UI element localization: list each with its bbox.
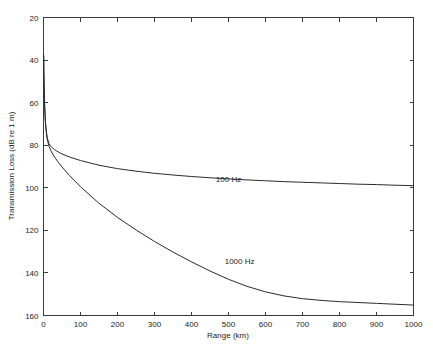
x-tick-label: 600 <box>259 320 273 329</box>
y-axis-title: Transmission Loss (dB re 1 m) <box>7 111 16 220</box>
y-axis-tick-labels: 20406080100120140160 <box>25 14 39 321</box>
x-tick-label: 700 <box>296 320 310 329</box>
x-tick-label: 400 <box>185 320 199 329</box>
transmission-loss-plot: 01002003004005006007008009001000 2040608… <box>0 0 433 351</box>
x-axis-ticks <box>44 18 414 316</box>
x-tick-label: 900 <box>370 320 384 329</box>
y-tick-label: 40 <box>30 56 39 65</box>
curve-100-hz <box>44 56 414 186</box>
x-tick-label: 200 <box>111 320 125 329</box>
annotation-1000-hz: 1000 Hz <box>225 257 255 266</box>
y-tick-label: 120 <box>25 226 39 235</box>
x-tick-label: 300 <box>148 320 162 329</box>
x-axis-tick-labels: 01002003004005006007008009001000 <box>41 320 423 329</box>
y-tick-label: 60 <box>30 99 39 108</box>
y-tick-label: 80 <box>30 141 39 150</box>
x-tick-label: 800 <box>333 320 347 329</box>
curve-annotations: 100 Hz1000 Hz <box>216 175 255 266</box>
y-axis-ticks <box>44 18 414 316</box>
x-tick-label: 0 <box>41 320 46 329</box>
chart-figure: 01002003004005006007008009001000 2040608… <box>0 0 433 351</box>
y-tick-label: 20 <box>30 14 39 23</box>
y-tick-label: 140 <box>25 269 39 278</box>
x-tick-label: 1000 <box>405 320 423 329</box>
annotation-100-hz: 100 Hz <box>216 175 241 184</box>
y-tick-label: 100 <box>25 184 39 193</box>
x-axis-title: Range (km) <box>207 331 249 340</box>
y-tick-label: 160 <box>25 312 39 321</box>
x-tick-label: 500 <box>222 320 236 329</box>
x-tick-label: 100 <box>74 320 88 329</box>
axes-box <box>44 18 414 316</box>
plot-frame <box>44 18 414 316</box>
